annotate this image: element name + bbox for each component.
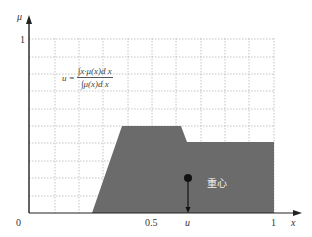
x-tick-1: 1 xyxy=(271,218,276,228)
centroid-formula: u = ∫x·μ(x)d x ∫μ(x)d x xyxy=(62,66,113,89)
formula-lhs: u = xyxy=(62,73,75,83)
x-axis-label: x xyxy=(291,218,295,228)
y-axis xyxy=(26,15,32,213)
u-marker-label: u xyxy=(185,218,190,228)
centroid-dot xyxy=(184,174,192,182)
origin-label: 0 xyxy=(16,218,21,228)
defuzzification-diagram xyxy=(0,0,312,237)
x-tick-0.5: 0.5 xyxy=(145,218,158,228)
x-axis-arrow-icon xyxy=(293,210,302,216)
y-axis-arrow-icon xyxy=(26,15,32,24)
y-axis-label: μ xyxy=(17,12,22,22)
formula-fraction: ∫x·μ(x)d x ∫μ(x)d x xyxy=(77,66,113,89)
centroid-label: 重心 xyxy=(207,175,227,190)
formula-numerator: ∫x·μ(x)d x xyxy=(77,66,113,78)
membership-area xyxy=(92,126,274,213)
formula-denominator: ∫μ(x)d x xyxy=(81,78,109,89)
y-tick-1: 1 xyxy=(20,35,25,45)
